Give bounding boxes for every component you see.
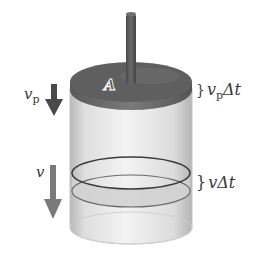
piston-displacement-label: }vpΔt <box>196 80 242 102</box>
cylinder <box>70 88 192 244</box>
piston-cylinder-diagram: A vp v }vpΔt }vΔt <box>0 0 266 257</box>
cylinder-body <box>70 88 192 244</box>
area-label: A <box>102 76 116 94</box>
piston-velocity-label: vp <box>24 85 40 106</box>
fluid-velocity-label: v <box>36 163 45 181</box>
fluid-velocity-arrow <box>44 165 62 219</box>
piston-rod <box>126 12 136 84</box>
fluid-displacement-label: }vΔt <box>196 173 236 192</box>
piston-velocity-arrow <box>45 84 63 116</box>
